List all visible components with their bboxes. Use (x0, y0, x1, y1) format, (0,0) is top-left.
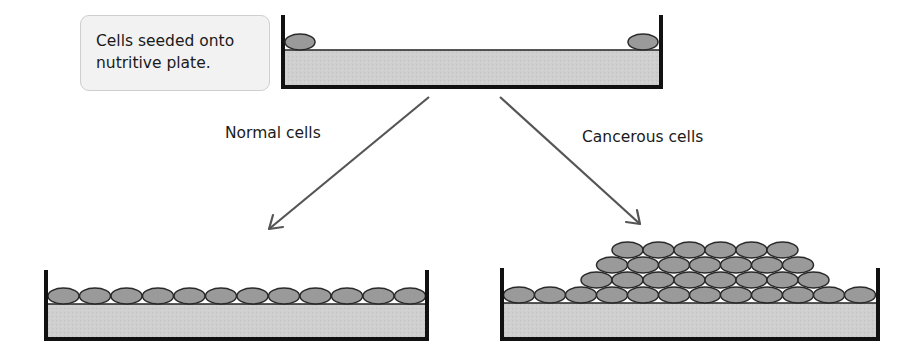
cell (628, 34, 658, 50)
top-culture-plate (283, 15, 661, 87)
nutrient-medium (46, 304, 427, 339)
cell (285, 34, 315, 50)
nutrient-medium (502, 303, 878, 339)
cancerous-cells-plate (502, 242, 878, 339)
normal-cells-plate (46, 270, 427, 339)
arrow-to-normal (269, 97, 429, 229)
nutrient-medium (283, 50, 661, 86)
cell-monolayer (48, 288, 426, 304)
arrow-to-cancerous (500, 97, 640, 224)
cell-pile (504, 242, 876, 303)
